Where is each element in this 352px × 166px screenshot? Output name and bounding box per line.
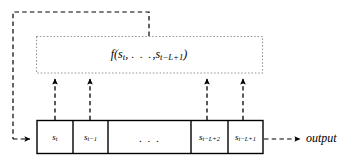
argument-ellipsis: . . . (131, 48, 152, 60)
register-cell-ellipsis: . . . (108, 133, 191, 144)
tap-arrows (55, 79, 243, 120)
delay-line-diagram: f(st, . . .,st−L+1) st st−1 . . . st−L+2… (0, 0, 352, 166)
register-cell-3: st−L+2 (191, 133, 228, 143)
function-block-label: f(st, . . .,st−L+1) (36, 48, 262, 62)
register-cell-1: st−1 (73, 133, 108, 143)
last-argument: st−L+1 (155, 47, 183, 61)
output-label: output (306, 132, 337, 144)
close-paren: ) (183, 47, 187, 61)
register-cell-4: st−L+1 (228, 133, 263, 143)
register-cell-0: st (37, 133, 73, 143)
